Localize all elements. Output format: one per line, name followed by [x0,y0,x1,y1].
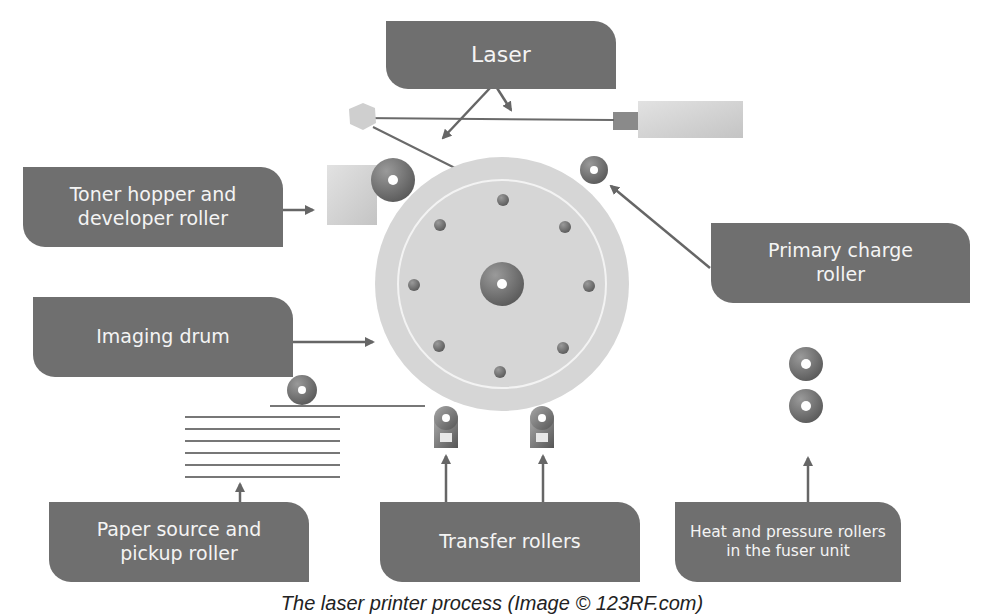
laser-beam [360,118,614,120]
paper-source-label-text: Paper source and pickup roller [97,518,262,566]
imaging-drum-label: Imaging drum [33,297,293,377]
transfer-roller-icon [530,406,554,448]
imaging-drum-label-text: Imaging drum [96,325,230,349]
paper-stack-icon [185,417,340,477]
figure-caption: The laser printer process (Image © 123RF… [0,592,984,615]
laser-unit [613,101,743,138]
fuser-roller-icon [789,347,823,423]
laser-label: Laser [386,21,616,89]
fuser-label-text: Heat and pressure rollers in the fuser u… [690,523,886,562]
paper-source-label: Paper source and pickup roller [49,502,309,582]
transfer-rollers-label: Transfer rollers [380,502,640,582]
fuser-label: Heat and pressure rollers in the fuser u… [675,502,901,582]
mirror-icon [349,103,376,130]
arrow-laser-drum [443,88,490,138]
developer-roller-icon [371,158,415,202]
arrow-primary-charge [611,186,710,268]
transfer-rollers-label-text: Transfer rollers [439,530,580,554]
transfer-roller-icon [434,406,458,448]
toner-hopper-label: Toner hopper and developer roller [23,167,283,247]
imaging-drum-icon [375,157,629,411]
primary-charge-roller-icon [580,156,608,184]
laser-label-text: Laser [471,41,531,69]
primary-charge-label-text: Primary charge roller [768,239,913,287]
primary-charge-label: Primary charge roller [711,223,970,303]
toner-hopper-icon [327,165,377,225]
pickup-roller-icon [287,375,317,405]
arrow-laser-beam [497,88,511,110]
toner-hopper-label-text: Toner hopper and developer roller [70,183,237,231]
